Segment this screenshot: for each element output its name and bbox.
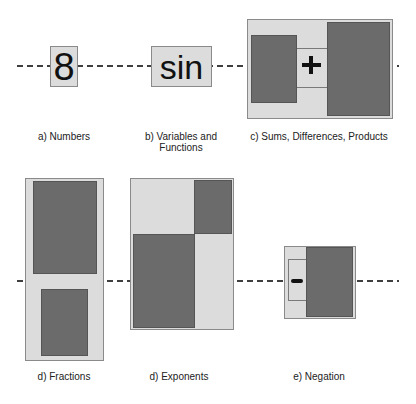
fraction-denominator <box>41 289 88 356</box>
sum-right-operand <box>327 22 390 116</box>
fraction-numerator <box>33 181 97 274</box>
function-glyph: sin <box>160 50 203 84</box>
caption-exponents: d) Exponents <box>129 371 229 382</box>
caption-variables-functions-line1: b) Variables and <box>131 131 231 142</box>
operator-bottom-line <box>297 87 327 88</box>
negation-operand <box>306 247 353 317</box>
caption-variables-functions-line2: Functions <box>131 142 231 153</box>
sum-left-operand <box>251 35 297 103</box>
minus-icon <box>291 279 303 283</box>
number-glyph: 8 <box>53 48 74 86</box>
caption-numbers: a) Numbers <box>14 131 114 142</box>
number-box: 8 <box>50 46 78 87</box>
caption-negation: e) Negation <box>269 371 369 382</box>
exponent-base <box>133 234 195 328</box>
caption-sums: c) Sums, Differences, Products <box>249 131 389 142</box>
caption-fractions: d) Fractions <box>14 371 114 382</box>
function-box: sin <box>151 46 212 87</box>
operator-top-line <box>297 48 327 49</box>
exponent-superscript <box>194 180 232 234</box>
